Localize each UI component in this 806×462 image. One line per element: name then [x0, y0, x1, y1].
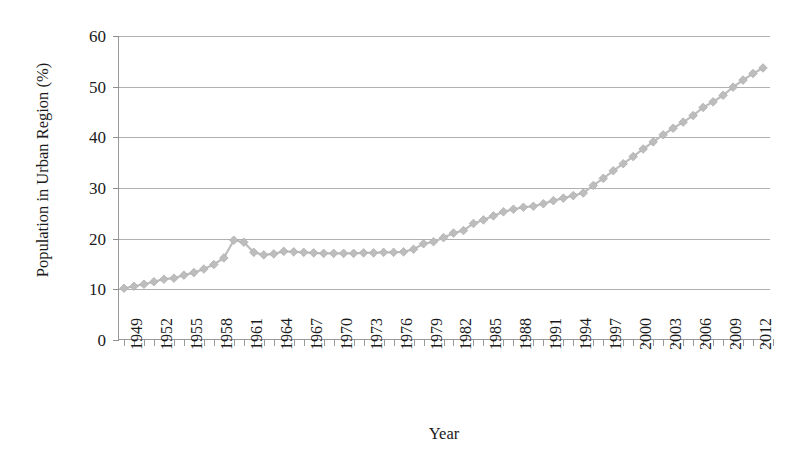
x-tick-label: 1958 — [219, 318, 235, 350]
x-tick-label: 1994 — [578, 318, 594, 350]
x-tick-label: 1997 — [608, 318, 624, 350]
x-tick-label: 2006 — [698, 318, 714, 350]
x-tick-label: 1967 — [309, 318, 325, 350]
x-tick-label: 1952 — [159, 318, 175, 350]
x-tick-label: 2009 — [728, 318, 744, 350]
x-tick-label: 1988 — [518, 318, 534, 350]
x-tick-label: 2000 — [638, 318, 654, 350]
x-tick-label: 2012 — [758, 318, 774, 350]
x-tick-label: 2003 — [668, 318, 684, 350]
x-tick-label: 1976 — [399, 318, 415, 350]
x-tick-label: 1982 — [458, 318, 474, 350]
x-tick-label: 1949 — [129, 318, 145, 350]
x-tick-label: 1970 — [339, 318, 355, 350]
x-tick-label: 1973 — [369, 318, 385, 350]
x-axis-title: Year — [118, 424, 770, 444]
x-tick-label: 1979 — [429, 318, 445, 350]
x-tick-label: 1961 — [249, 318, 265, 350]
x-tick-label: 1985 — [488, 318, 504, 350]
x-tick-label: 1991 — [548, 318, 564, 350]
chart-figure: Population in Urban Region (%) 010203040… — [0, 0, 806, 462]
x-tick-label: 1955 — [189, 318, 205, 350]
x-tick-label: 1964 — [279, 318, 295, 350]
x-axis-tick-labels: 1949195219551958196119641967197019731976… — [0, 0, 806, 462]
